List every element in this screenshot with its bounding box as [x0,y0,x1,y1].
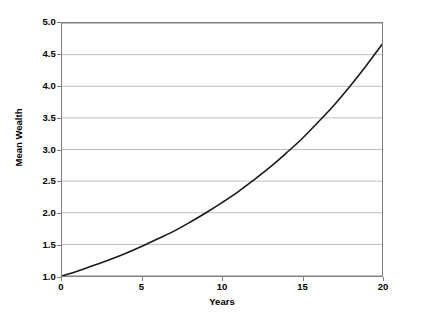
gridlines [62,23,382,276]
y-axis-tick-label: 2.5 [26,176,56,186]
x-axis-tick-label: 15 [283,281,323,292]
y-axis-tick-mark [57,213,61,214]
chart-canvas [62,23,382,276]
x-axis-tick-mark [142,277,143,281]
y-axis-tick-label: 1.5 [26,240,56,250]
y-axis-tick-mark [57,54,61,55]
x-axis-tick-label: 20 [363,281,403,292]
x-axis-tick-label: 0 [41,281,81,292]
y-axis-tick-mark [57,118,61,119]
y-axis-tick-label: 4.0 [26,81,56,91]
x-axis-title: Years [61,296,383,307]
chart-container: 1.01.52.02.53.03.54.04.55.0 05101520 Yea… [0,0,427,323]
x-axis-tick-label: 5 [122,281,162,292]
x-axis-tick-labels: 05101520 [0,281,427,295]
y-axis-tick-mark [57,150,61,151]
y-axis-tick-label: 4.5 [26,49,56,59]
y-axis-tick-label: 3.5 [26,113,56,123]
y-axis-tick-labels: 1.01.52.02.53.03.54.04.55.0 [23,0,56,323]
y-axis-tick-mark [57,86,61,87]
x-axis-tick-mark [61,277,62,281]
plot-area [61,22,383,277]
x-axis-tick-mark [303,277,304,281]
y-axis-tick-mark [57,181,61,182]
y-axis-tick-mark [57,22,61,23]
y-axis-tick-mark [57,245,61,246]
y-axis-tick-label: 2.0 [26,208,56,218]
y-axis-tick-label: 5.0 [26,17,56,27]
x-axis-tick-mark [222,277,223,281]
y-axis-tick-label: 3.0 [26,145,56,155]
x-axis-tick-label: 10 [202,281,242,292]
y-axis-title: Mean Wealth [13,93,24,183]
x-axis-tick-mark [383,277,384,281]
data-series-mean-wealth [62,45,382,276]
